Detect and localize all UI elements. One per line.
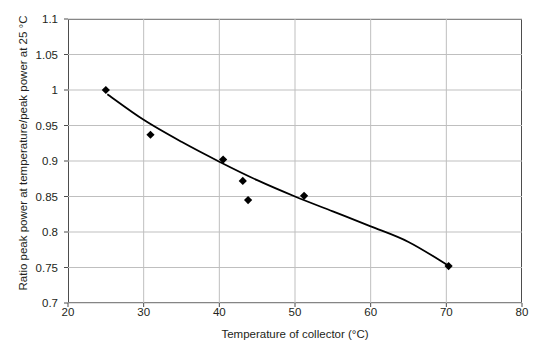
x-tick-label: 60	[364, 306, 377, 318]
x-tick-label: 80	[516, 306, 529, 318]
x-axis-title: Temperature of collector (°C)	[68, 328, 522, 340]
chart-figure: Ratio peak power at temperature/peak pow…	[0, 0, 550, 353]
x-tick-label: 50	[289, 306, 302, 318]
x-tick-label: 40	[213, 306, 226, 318]
x-tick-label: 30	[137, 306, 150, 318]
x-tick-label: 20	[62, 306, 75, 318]
x-tick-label: 70	[440, 306, 453, 318]
x-axis-tick-labels: 20304050607080	[0, 0, 550, 353]
